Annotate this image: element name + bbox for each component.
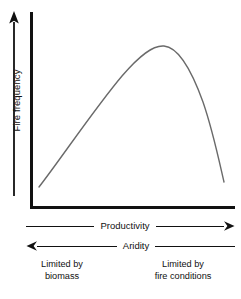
fire-frequency-figure: Fire frequency Productivity Aridity Limi… (0, 0, 241, 299)
productivity-rule-right (156, 226, 224, 227)
y-axis-label: Fire frequency (11, 41, 22, 161)
aridity-rule-right (155, 246, 235, 247)
aridity-rule-left (37, 246, 117, 247)
arrow-up-icon (9, 11, 19, 24)
caption-limited-by-fire-conditions: Limited by fire conditions (131, 259, 235, 282)
plot-canvas (0, 0, 241, 299)
caption-limited-by-biomass: Limited by biomass (14, 259, 110, 282)
productivity-rule-left (26, 226, 94, 227)
productivity-label: Productivity (94, 221, 155, 231)
aridity-axis-row: Aridity (26, 239, 235, 253)
arrow-right-icon (224, 220, 235, 232)
productivity-axis-row: Productivity (26, 219, 235, 233)
arrow-left-icon (26, 240, 37, 252)
aridity-label: Aridity (117, 241, 155, 251)
fire-frequency-curve (39, 46, 224, 187)
